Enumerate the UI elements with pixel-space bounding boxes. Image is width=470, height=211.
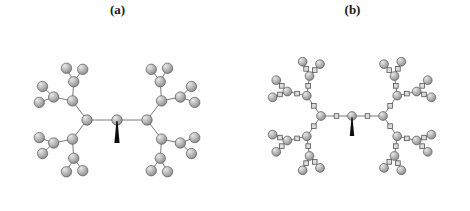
monomer-node: [298, 57, 307, 66]
monomer-node: [34, 132, 44, 142]
linker-square: [422, 92, 427, 97]
linker-square: [420, 84, 425, 89]
dendrimer-graph-a: [0, 0, 235, 211]
monomer-node: [37, 81, 47, 91]
panel-a-canvas: [0, 0, 235, 211]
linker-square: [312, 104, 317, 109]
linker-square: [334, 114, 339, 119]
monomer-node: [190, 97, 200, 107]
linker-square: [278, 135, 283, 140]
panel-a: (a): [0, 0, 235, 211]
linker-square: [394, 144, 399, 149]
monomer-node: [268, 93, 277, 102]
monomer-node: [272, 76, 281, 85]
monomer-node: [69, 77, 79, 87]
monomer-node: [186, 81, 196, 91]
monomer-node: [156, 134, 166, 144]
linker-square: [405, 136, 410, 141]
monomer-node: [317, 112, 326, 121]
node-layer: [34, 63, 200, 177]
linker-square: [388, 104, 393, 109]
linker-square: [312, 68, 317, 73]
monomer-node: [283, 87, 292, 96]
monomer-node: [427, 93, 436, 102]
linker-square: [306, 144, 311, 149]
monomer-node: [393, 132, 402, 141]
monomer-node: [142, 115, 152, 125]
linker-square: [396, 161, 401, 166]
panel-b-canvas: [235, 0, 470, 211]
monomer-node: [67, 96, 77, 106]
monomer-node: [156, 96, 166, 106]
monomer-node: [390, 152, 399, 161]
linker-square: [295, 91, 300, 96]
monomer-node: [316, 60, 325, 69]
monomer-node: [393, 91, 402, 100]
linker-square: [396, 67, 401, 72]
monomer-node: [423, 76, 432, 85]
linker-square: [422, 135, 427, 140]
monomer-node: [283, 136, 292, 145]
monomer-node: [302, 91, 311, 100]
monomer-node: [162, 167, 172, 177]
monomer-node: [186, 148, 196, 158]
monomer-node: [316, 163, 325, 172]
linker-square: [280, 84, 285, 89]
monomer-node: [272, 147, 281, 156]
linker-square: [420, 144, 425, 149]
monomer-node: [268, 130, 277, 139]
linker-square: [365, 114, 370, 119]
linker-square: [278, 92, 283, 97]
monomer-node: [69, 153, 79, 163]
monomer-node: [298, 166, 307, 175]
monomer-node: [380, 60, 389, 69]
linker-square: [304, 161, 309, 166]
linker-square: [312, 160, 317, 165]
monomer-node: [78, 64, 88, 74]
monomer-node: [48, 92, 58, 102]
node-layer: [268, 57, 436, 174]
monomer-node: [82, 115, 92, 125]
linker-square: [405, 91, 410, 96]
monomer-node: [175, 92, 185, 102]
monomer-node: [390, 72, 399, 81]
monomer-node: [61, 63, 71, 73]
linker-square: [304, 67, 309, 72]
monomer-node: [412, 87, 421, 96]
monomer-node: [155, 153, 165, 163]
panel-b: (b): [235, 0, 470, 211]
monomer-node: [302, 132, 311, 141]
monomer-node: [34, 97, 44, 107]
figure-container: (a) (b): [0, 0, 470, 211]
monomer-node: [305, 152, 314, 161]
monomer-node: [61, 167, 71, 177]
linker-square: [388, 124, 393, 129]
monomer-node: [427, 130, 436, 139]
monomer-node: [67, 134, 77, 144]
linker-square: [387, 160, 392, 165]
linker-square: [306, 84, 311, 89]
linker-square: [295, 136, 300, 141]
monomer-node: [412, 136, 421, 145]
monomer-node: [190, 132, 200, 142]
dendrimer-graph-b: [235, 0, 470, 211]
monomer-node: [175, 138, 185, 148]
monomer-node: [48, 138, 58, 148]
monomer-node: [305, 72, 314, 81]
linker-square: [312, 124, 317, 129]
linker-square: [280, 144, 285, 149]
monomer-node: [423, 147, 432, 156]
monomer-node: [379, 112, 388, 121]
monomer-node: [397, 57, 406, 66]
monomer-node: [155, 77, 165, 87]
linker-square: [387, 68, 392, 73]
monomer-node: [380, 163, 389, 172]
monomer-node: [146, 64, 156, 74]
monomer-node: [37, 148, 47, 158]
monomer-node: [146, 165, 156, 175]
monomer-node: [78, 165, 88, 175]
linker-square: [394, 84, 399, 89]
monomer-node: [162, 63, 172, 73]
monomer-node: [397, 166, 406, 175]
